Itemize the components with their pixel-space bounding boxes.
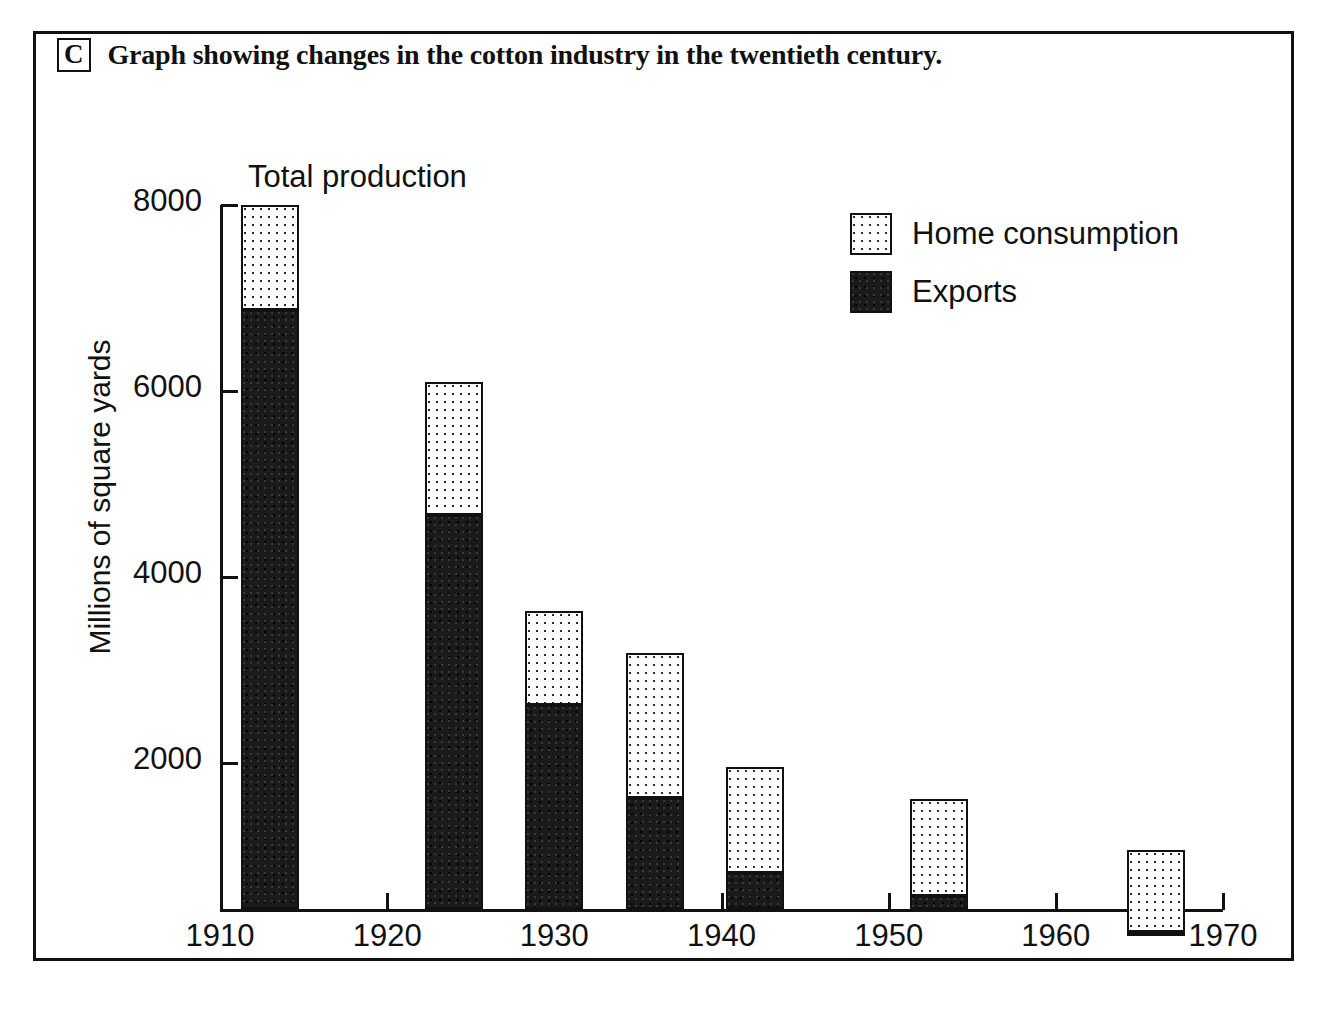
figure-page: C Graph showing changes in the cotton in… <box>0 0 1332 1024</box>
figure-border <box>33 31 1294 961</box>
caption-title-text: Graph showing changes in the cotton indu… <box>108 39 943 71</box>
figure-caption: C Graph showing changes in the cotton in… <box>57 38 942 72</box>
caption-letter-badge: C <box>57 38 91 72</box>
